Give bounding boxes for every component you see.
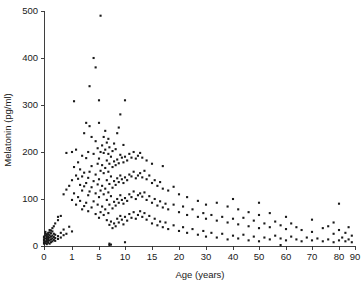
data-point — [344, 232, 346, 234]
data-point — [95, 213, 97, 215]
data-point — [232, 235, 234, 237]
data-point — [79, 168, 81, 170]
data-point — [351, 241, 353, 243]
data-point — [197, 200, 199, 202]
data-point — [57, 238, 59, 240]
data-point — [210, 214, 212, 216]
data-point — [73, 192, 75, 194]
data-point — [237, 237, 239, 239]
data-point — [280, 244, 282, 246]
data-point — [151, 163, 153, 165]
data-point — [57, 235, 59, 237]
data-point — [167, 208, 169, 210]
data-point — [227, 221, 229, 223]
data-point — [351, 235, 353, 237]
data-point — [97, 183, 99, 185]
data-point — [65, 189, 67, 191]
data-point — [83, 132, 85, 134]
data-point — [111, 150, 113, 152]
data-point — [327, 238, 329, 240]
data-point — [97, 147, 99, 149]
data-point — [159, 221, 161, 223]
data-point — [148, 195, 150, 197]
y-tick-label: 100 — [22, 193, 38, 204]
data-point — [119, 215, 121, 217]
scatter-plot-canvas: 0100200300400500 01510152030405060708090… — [0, 0, 362, 285]
data-point — [93, 180, 95, 182]
data-point — [85, 182, 87, 184]
data-point — [202, 212, 204, 214]
data-point — [263, 222, 265, 224]
data-point — [148, 215, 150, 217]
data-point — [116, 177, 118, 179]
data-point — [118, 181, 120, 183]
data-point — [280, 224, 282, 226]
data-point — [106, 179, 108, 181]
data-point — [79, 200, 81, 202]
data-point — [311, 239, 313, 241]
data-point — [258, 214, 260, 216]
data-point — [322, 240, 324, 242]
data-point — [53, 225, 55, 227]
data-point — [221, 233, 223, 235]
x-tick-label: 40 — [228, 251, 239, 262]
data-point — [135, 198, 137, 200]
data-point — [110, 244, 112, 246]
data-point — [77, 161, 79, 163]
data-point — [258, 240, 260, 242]
data-point — [216, 220, 218, 222]
data-point — [98, 217, 100, 219]
data-point — [100, 170, 102, 172]
data-point — [182, 205, 184, 207]
data-point — [113, 160, 115, 162]
data-point — [101, 144, 103, 146]
data-point — [71, 199, 73, 201]
data-point — [274, 235, 276, 237]
data-point — [111, 187, 113, 189]
data-point — [97, 163, 99, 165]
x-tick-label: 60 — [281, 251, 292, 262]
data-point — [104, 208, 106, 210]
data-point — [122, 203, 124, 205]
data-point — [143, 191, 145, 193]
data-point — [119, 113, 121, 115]
data-point — [57, 216, 59, 218]
y-tick-label: 400 — [22, 52, 38, 63]
y-tick-label: 300 — [22, 99, 38, 110]
data-point — [122, 161, 124, 163]
data-point — [242, 217, 244, 219]
data-point — [159, 200, 161, 202]
data-point — [269, 226, 271, 228]
data-point — [237, 223, 239, 225]
data-point — [197, 216, 199, 218]
data-point — [54, 222, 56, 224]
data-point — [116, 218, 118, 220]
data-point — [106, 219, 108, 221]
data-point — [50, 232, 52, 234]
data-point — [248, 225, 250, 227]
data-point — [173, 186, 175, 188]
data-point — [151, 182, 153, 184]
data-point — [83, 205, 85, 207]
x-tick-label: 1 — [69, 251, 74, 262]
data-point — [146, 219, 148, 221]
data-point — [130, 175, 132, 177]
data-point — [81, 208, 83, 210]
data-point — [135, 158, 137, 160]
data-point — [301, 229, 303, 231]
data-point — [89, 85, 91, 87]
data-point — [143, 212, 145, 214]
data-point — [269, 238, 271, 240]
data-point — [126, 179, 128, 181]
x-tick-label: 5 — [96, 251, 101, 262]
data-point — [108, 224, 110, 226]
data-point — [91, 206, 93, 208]
data-point — [107, 191, 109, 193]
data-point — [221, 216, 223, 218]
data-point — [333, 233, 335, 235]
data-point — [93, 200, 95, 202]
data-point — [162, 188, 164, 190]
data-point — [280, 237, 282, 239]
data-point — [98, 158, 100, 160]
data-point — [124, 156, 126, 158]
